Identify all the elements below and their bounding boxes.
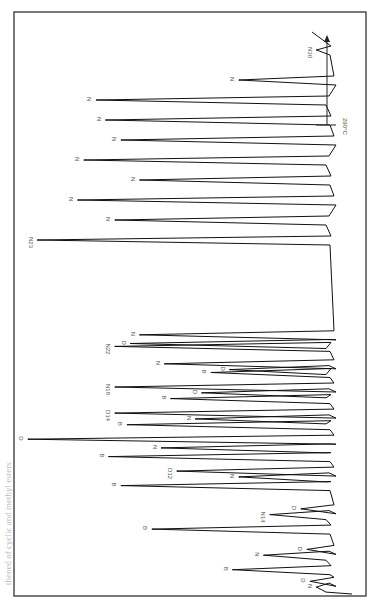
- peak-label: N23: [28, 237, 34, 249]
- peak-apex: [114, 386, 115, 387]
- peak-label: N: [74, 157, 80, 161]
- peak-apex: [152, 529, 153, 530]
- peak-apex: [238, 79, 239, 80]
- peak-label: D: [121, 341, 127, 346]
- peak-apex: [263, 555, 264, 556]
- peak-apex: [108, 456, 109, 457]
- plot-frame: [14, 12, 366, 596]
- peak-apex: [114, 346, 115, 347]
- peak-apex: [121, 485, 122, 486]
- peak-label: N: [111, 137, 117, 141]
- peak-label: B: [142, 526, 148, 530]
- peak-label: N18: [105, 384, 111, 396]
- peak-apex: [114, 413, 115, 414]
- peak-apex: [229, 369, 230, 370]
- peak-apex: [139, 334, 140, 335]
- peak-apex: [316, 49, 317, 50]
- peak-label: N: [130, 177, 136, 181]
- temperature-label: 290°C: [342, 118, 348, 135]
- peak-label: D: [18, 436, 24, 441]
- peak-label: B: [117, 422, 123, 426]
- peak-label: N: [254, 552, 260, 556]
- peak-label: B: [161, 396, 167, 400]
- peak-apex: [127, 424, 128, 425]
- peak-label: N: [229, 77, 235, 81]
- peak-label: N: [68, 197, 74, 201]
- peak-label: D: [300, 578, 306, 583]
- peak-label: D: [220, 367, 226, 372]
- peak-apex: [28, 439, 29, 440]
- peak-label: N30: [307, 47, 313, 59]
- peak-label: N22: [105, 343, 111, 355]
- peak-apex: [130, 343, 131, 344]
- peak-label: N: [96, 117, 102, 121]
- peak-apex: [307, 549, 308, 550]
- peak-label: N: [186, 416, 192, 420]
- peak-apex: [164, 363, 165, 364]
- peak-label: D12: [167, 468, 173, 480]
- peak-apex: [269, 514, 270, 515]
- peak-label: B: [99, 454, 105, 458]
- peak-apex: [176, 471, 177, 472]
- peak-apex: [37, 239, 38, 240]
- peak-apex: [300, 508, 301, 509]
- temperature-arrow-head: [324, 35, 330, 42]
- peak-label: N: [229, 474, 235, 478]
- peak-label: B: [201, 370, 207, 374]
- peak-labels: NDBNDBN14DBND12BNDBND14BDN18BDNN22DNN23N…: [18, 47, 312, 588]
- peak-label: N: [307, 584, 313, 588]
- trace-group: [28, 32, 352, 594]
- peak-label: D: [297, 546, 303, 551]
- peak-apex: [161, 447, 162, 448]
- peak-apex: [316, 587, 317, 588]
- peak-label: N: [86, 97, 92, 101]
- peak-apex: [114, 219, 115, 220]
- peak-apex: [139, 179, 140, 180]
- peak-apex: [105, 119, 106, 120]
- peak-label: N: [105, 217, 111, 221]
- chromatogram: NDBNDBN14DBND12BNDBND14BDN18BDNN22DNN23N…: [0, 0, 374, 603]
- peak-apex: [170, 398, 171, 399]
- peak-label: D14: [105, 410, 111, 422]
- peak-apex: [310, 581, 311, 582]
- peak-label: N: [155, 361, 161, 365]
- peak-apex: [238, 476, 239, 477]
- peak-label: N: [130, 332, 136, 336]
- peak-apex: [211, 372, 212, 373]
- peak-label: B: [111, 483, 117, 487]
- chromatogram-trace: [28, 32, 352, 594]
- peak-label: N14: [260, 512, 266, 524]
- peak-apex: [83, 159, 84, 160]
- peak-apex: [121, 139, 122, 140]
- peak-label: D: [192, 390, 198, 395]
- peak-label: N: [152, 445, 158, 449]
- peak-label: D: [291, 506, 297, 511]
- peak-apex: [201, 392, 202, 393]
- peak-apex: [77, 199, 78, 200]
- peak-apex: [96, 99, 97, 100]
- peak-apex: [195, 418, 196, 419]
- peak-label: B: [223, 567, 229, 571]
- peak-apex: [232, 569, 233, 570]
